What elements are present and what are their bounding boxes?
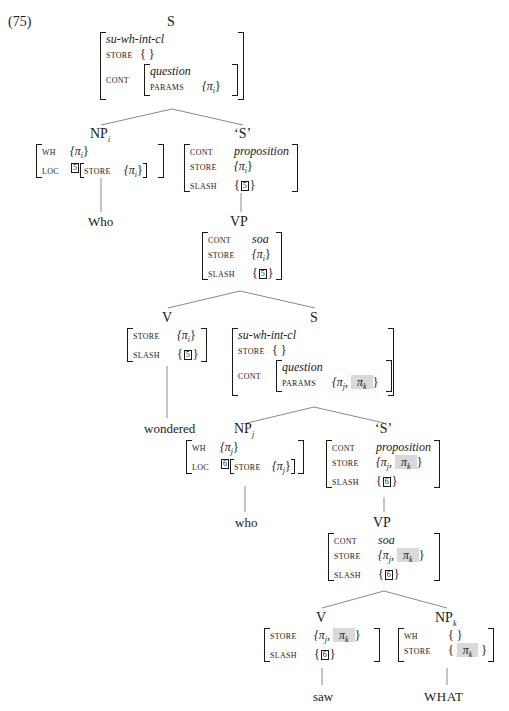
node-label-v: V <box>162 310 172 326</box>
feature-store: STORE <box>133 328 177 343</box>
feature-loc: LOC <box>192 459 220 474</box>
brace-close: } <box>247 159 253 173</box>
leaf-saw: saw <box>313 689 333 705</box>
feature-slash: SLASH <box>190 178 234 193</box>
feature-cont: CONT <box>334 533 378 548</box>
index-subscript: k <box>345 635 349 644</box>
feature-params: PARAMS <box>150 79 202 94</box>
value-store: {π <box>376 455 387 469</box>
tag-box-6: 6 <box>385 570 393 580</box>
node-label-root-s: S <box>167 14 175 30</box>
avm-v-1: STORE{πi} SLASH{5} <box>127 328 207 362</box>
value-store: {π <box>314 628 325 642</box>
index-subscript: j <box>343 382 345 391</box>
avm-np-i: WH{πi} LOC5STORE{πi} <box>36 144 164 178</box>
highlighted-param-k: πk <box>395 455 417 469</box>
feature-cont: CONT <box>238 368 276 383</box>
avm-v-2: STORE{πj, πk} SLASH{6} <box>264 628 380 662</box>
avm-cont-inner: question PARAMS{πj, πk} <box>276 360 392 392</box>
avm-vp-1: CONTsoa STORE{πi} SLASH{5} <box>202 232 282 280</box>
index-subscript: j <box>389 555 391 564</box>
feature-slash: SLASH <box>270 647 314 662</box>
avm-type: su-wh-int-cl <box>106 32 164 47</box>
avm-type-question: question <box>150 64 191 78</box>
node-label-v-embedded: V <box>316 610 326 626</box>
feature-cont: CONT <box>190 144 234 159</box>
value-store: { } <box>272 343 287 358</box>
feature-store: STORE <box>332 455 376 470</box>
value-cont: soa <box>378 533 395 548</box>
avm-np-k: WH{ } STORE{ πk } <box>398 628 494 662</box>
label-subscript: i <box>108 135 110 144</box>
label-subscript: k <box>453 619 457 628</box>
node-label-vp: VP <box>230 214 248 230</box>
leaf-wondered: wondered <box>144 421 195 437</box>
value-store: {π <box>272 459 283 473</box>
index-subscript: k <box>407 462 411 471</box>
index-subscript: k <box>469 650 473 659</box>
feature-wh: WH <box>404 628 448 643</box>
value-cont: proposition <box>376 440 431 455</box>
avm-cont-inner: question PARAMS{πi} <box>144 64 238 96</box>
brace-close: } <box>190 328 196 342</box>
brace-close: } <box>215 79 221 93</box>
node-label-embedded-s: S <box>310 310 318 326</box>
label-text: NP <box>234 421 252 436</box>
avm-type-question: question <box>282 360 323 374</box>
value-cont: proposition <box>234 144 289 159</box>
feature-wh: WH <box>192 440 220 455</box>
example-number: (75) <box>8 14 31 30</box>
feature-store: STORE <box>334 548 378 563</box>
value-store: {π <box>124 163 135 177</box>
highlighted-param-k: πk <box>333 628 355 642</box>
value-cont: soa <box>252 232 269 247</box>
feature-wh: WH <box>42 144 70 159</box>
feature-cont: CONT <box>208 232 252 247</box>
value-params: {π <box>332 375 343 389</box>
tag-box-6: 6 <box>221 459 229 469</box>
feature-store: STORE <box>106 47 140 62</box>
avm-root: su-wh-int-cl STORE{ } CONT question PARA… <box>100 32 244 100</box>
avm-s-bar-1: CONTproposition STORE{πi} SLASH{5} <box>184 144 298 192</box>
leaf-who: Who <box>88 214 113 230</box>
label-text: NP <box>90 126 108 141</box>
node-label-s-bar: ‘S’ <box>234 126 251 142</box>
feature-store: STORE <box>208 247 252 262</box>
feature-slash: SLASH <box>133 347 177 362</box>
avm-s-bar-2: CONTproposition STORE{πj, πk} SLASH{6} <box>326 440 440 488</box>
value-params: {π <box>202 79 213 93</box>
value-wh: { } <box>448 628 463 643</box>
feature-store: STORE <box>238 343 272 358</box>
leaf-what: WHAT <box>424 689 464 705</box>
value-store: {π <box>234 159 245 173</box>
tag-box-5: 5 <box>71 163 79 173</box>
avm-np-j: WH{πj} LOC6STORE{πj} <box>186 440 304 474</box>
value-store: {π <box>177 328 188 342</box>
avm-type: su-wh-int-cl <box>238 328 296 343</box>
feature-slash: SLASH <box>208 266 252 281</box>
tag-box-5: 5 <box>241 181 249 191</box>
node-label-np-i: NPi <box>90 126 110 144</box>
tag-box-5: 5 <box>259 269 267 279</box>
node-label-np-j: NPj <box>234 421 254 439</box>
index-subscript: k <box>363 382 367 391</box>
value-wh: {π <box>220 440 231 454</box>
tag-box-6: 6 <box>321 650 329 660</box>
index-subscript: j <box>387 462 389 471</box>
feature-store: STORE <box>190 159 234 174</box>
index-subscript: j <box>325 635 327 644</box>
leaf-who-embedded: who <box>235 515 257 531</box>
feature-store: STORE <box>234 459 272 474</box>
brace-close: } <box>265 247 271 261</box>
feature-params: PARAMS <box>282 375 332 390</box>
feature-store: STORE <box>404 643 448 658</box>
feature-slash: SLASH <box>334 567 378 582</box>
node-label-vp-embedded: VP <box>373 515 391 531</box>
tag-box-6: 6 <box>383 477 391 487</box>
brace-close: } <box>83 144 89 158</box>
highlighted-param-k: πk <box>351 375 373 389</box>
brace-close: } <box>233 440 239 454</box>
highlighted-param-k: πk <box>397 548 419 562</box>
label-text: NP <box>435 610 453 625</box>
feature-store: STORE <box>270 628 314 643</box>
